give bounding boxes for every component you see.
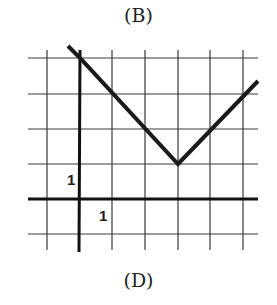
grid-lines [28, 50, 258, 250]
axes [28, 50, 258, 252]
y-axis [79, 50, 80, 252]
function-line [68, 46, 258, 164]
y-unit-label: 1 [67, 171, 75, 188]
coordinate-graph: 1 1 [0, 0, 277, 305]
caption-bottom: (D) [0, 269, 277, 291]
x-unit-label: 1 [99, 207, 107, 224]
